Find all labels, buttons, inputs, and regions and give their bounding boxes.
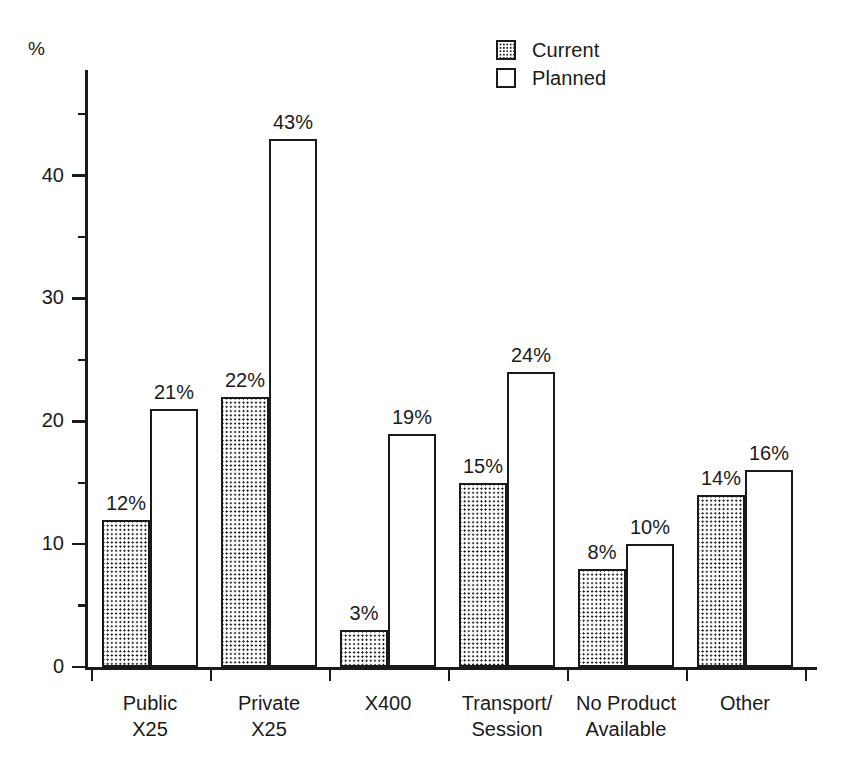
legend-item: Planned — [496, 64, 606, 92]
y-tick-label: 30 — [0, 286, 64, 309]
x-tick-divider — [686, 669, 688, 681]
y-tick-minor — [78, 604, 86, 606]
bar-value-label: 10% — [630, 516, 670, 539]
y-tick-minor — [78, 113, 86, 115]
stipple-square-icon — [496, 40, 516, 60]
y-tick-label: 20 — [0, 409, 64, 432]
x-tick-divider — [805, 669, 807, 681]
legend-item-label: Current — [532, 39, 599, 62]
legend-item: Current — [496, 36, 606, 64]
x-tick-divider — [567, 669, 569, 681]
bar-chart: % CurrentPlanned 010203040 12%21%22%43%3… — [0, 0, 858, 768]
bar-current — [102, 520, 150, 667]
bar-current — [578, 569, 626, 667]
empty-square-icon — [496, 68, 516, 88]
y-tick-minor — [78, 359, 86, 361]
bar-value-label: 43% — [273, 111, 313, 134]
legend-item-label: Planned — [532, 67, 606, 90]
bar-planned — [626, 544, 674, 667]
x-tick-divider — [448, 669, 450, 681]
y-tick-major — [72, 666, 86, 668]
y-axis-line — [85, 70, 88, 670]
y-tick-minor — [78, 482, 86, 484]
bar-planned — [269, 139, 317, 667]
bar-value-label: 24% — [511, 344, 551, 367]
y-axis-unit-label: % — [28, 38, 45, 60]
bar-value-label: 8% — [588, 541, 617, 564]
y-tick-label: 40 — [0, 164, 64, 187]
y-tick-major — [72, 174, 86, 176]
chart-legend: CurrentPlanned — [496, 36, 606, 92]
y-tick-minor — [78, 236, 86, 238]
x-tick-divider — [329, 669, 331, 681]
bar-current — [459, 483, 507, 667]
y-tick-label: 10 — [0, 532, 64, 555]
y-tick-major — [72, 543, 86, 545]
x-tick-divider — [91, 669, 93, 681]
bar-value-label: 21% — [154, 381, 194, 404]
bar-value-label: 22% — [225, 369, 265, 392]
bar-current — [221, 397, 269, 667]
bar-planned — [507, 372, 555, 667]
x-axis-line — [85, 667, 817, 670]
bar-value-label: 15% — [463, 455, 503, 478]
bar-value-label: 14% — [701, 467, 741, 490]
bar-value-label: 19% — [392, 406, 432, 429]
bar-planned — [388, 434, 436, 667]
bar-value-label: 3% — [350, 602, 379, 625]
bar-value-label: 16% — [749, 442, 789, 465]
x-tick-divider — [210, 669, 212, 681]
bar-current — [340, 630, 388, 667]
bar-planned — [150, 409, 198, 667]
y-tick-major — [72, 420, 86, 422]
y-tick-label: 0 — [0, 655, 64, 678]
bar-value-label: 12% — [106, 492, 146, 515]
x-axis-category-label: Other — [660, 690, 830, 716]
y-tick-major — [72, 297, 86, 299]
bar-planned — [745, 470, 793, 667]
bar-current — [697, 495, 745, 667]
